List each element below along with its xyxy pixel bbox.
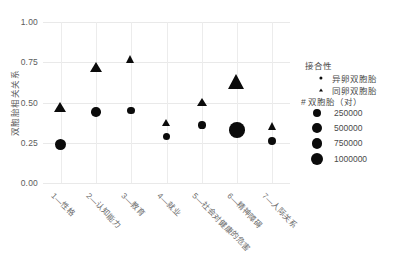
legend-size-item[interactable]: 750000 [306, 138, 362, 149]
legend-item-dizygotic[interactable]: 异卵双胞胎 [313, 72, 377, 84]
legend-size-label: 1000000 [334, 154, 367, 164]
legend-size-item[interactable]: 500000 [306, 123, 362, 133]
x-tick-label: 7—人际关系 [261, 190, 301, 230]
gridline-vertical [272, 22, 273, 183]
x-tick-label: 5—社会对健康的危害 [190, 190, 253, 253]
gridline-vertical [167, 22, 168, 183]
legend-size-item[interactable]: 1000000 [306, 153, 367, 165]
data-point-monozygotic [126, 55, 134, 63]
x-tick-label: 2—认知能力 [84, 190, 124, 230]
y-tick-label: 0.00 [8, 178, 38, 188]
data-point-dizygotic [91, 107, 100, 116]
legend-size-label: 750000 [334, 138, 362, 148]
legend-size-item[interactable]: 250000 [306, 108, 362, 118]
data-point-monozygotic [228, 74, 244, 89]
data-point-dizygotic [163, 133, 170, 140]
y-tick-label: 0.75 [8, 57, 38, 67]
data-point-dizygotic [229, 122, 245, 138]
legend-size-title: # 双胞胎（对） [301, 95, 362, 107]
data-point-monozygotic [90, 62, 102, 72]
gridline-vertical [237, 22, 238, 183]
circle-marker-icon [306, 153, 328, 165]
gridline-vertical [131, 22, 132, 183]
x-tick-label: 4—就业 [155, 190, 183, 218]
data-point-monozygotic [197, 98, 207, 106]
y-tick-label: 0.50 [8, 98, 38, 108]
data-point-monozygotic [54, 102, 66, 112]
data-point-monozygotic [162, 119, 170, 126]
x-tick-label: 3—教育 [119, 190, 147, 218]
x-tick-label: 1—性格 [49, 190, 77, 218]
gridline-horizontal [43, 183, 290, 184]
data-point-dizygotic [127, 107, 135, 115]
legend-size-label: 250000 [334, 108, 362, 118]
legend-size-label: 500000 [334, 123, 362, 133]
twin-correlation-scatter-chart: 双胞胎相关关系 0.000.250.500.751.00 1—性格2—认知能力3… [0, 0, 402, 270]
circle-marker-icon [306, 109, 328, 117]
circle-marker-icon [313, 72, 329, 84]
data-point-dizygotic [55, 139, 66, 150]
y-tick-label: 1.00 [8, 17, 38, 27]
data-point-dizygotic [198, 121, 206, 129]
data-point-monozygotic [268, 122, 276, 130]
gridline-vertical [96, 22, 97, 183]
circle-marker-icon [306, 123, 328, 133]
circle-marker-icon [306, 138, 328, 149]
y-tick-label: 0.25 [8, 138, 38, 148]
legend-item-label: 异卵双胞胎 [332, 72, 377, 84]
legend-zygosity-title: 接合性 [305, 59, 332, 71]
